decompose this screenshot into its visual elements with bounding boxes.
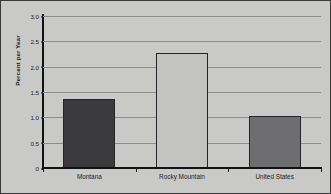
bar[interactable] xyxy=(249,116,301,168)
x-tick-label: United States xyxy=(228,173,321,180)
y-tick-label: 2.0 xyxy=(30,63,39,70)
chart-plate: Percent per Year 00.51.01.52.02.53.0 Mon… xyxy=(5,5,327,190)
y-axis-tick-labels: 00.51.01.52.02.53.0 xyxy=(19,16,39,168)
y-tick-label: 2.5 xyxy=(30,38,39,45)
x-tick-mark xyxy=(43,169,44,172)
x-tick-label: Montana xyxy=(43,173,136,180)
bar-chart-figure: Percent per Year 00.51.01.52.02.53.0 Mon… xyxy=(0,0,331,194)
bar-slot xyxy=(136,16,229,168)
x-tick-mark xyxy=(136,169,137,172)
y-tick-label: 1.5 xyxy=(30,89,39,96)
bar[interactable] xyxy=(63,99,115,168)
bar-group xyxy=(43,16,321,168)
bar-slot xyxy=(43,16,136,168)
y-tick-label: 0 xyxy=(36,165,39,172)
bar-slot xyxy=(228,16,321,168)
x-tick-mark xyxy=(321,169,322,172)
x-tick-mark xyxy=(228,169,229,172)
plot-area xyxy=(43,16,321,168)
bar[interactable] xyxy=(156,53,208,168)
y-tick-label: 0.5 xyxy=(30,139,39,146)
x-tick-label: Rocky Mountain xyxy=(136,173,229,180)
y-tick-label: 3.0 xyxy=(30,13,39,20)
y-tick-label: 1.0 xyxy=(30,114,39,121)
x-axis-tick-labels: MontanaRocky MountainUnited States xyxy=(43,173,321,180)
